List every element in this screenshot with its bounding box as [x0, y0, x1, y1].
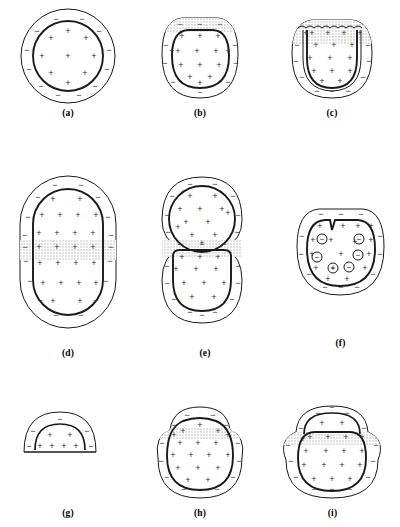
svg-text:+: +: [221, 278, 226, 288]
svg-text:+: +: [91, 258, 96, 268]
svg-text:−: −: [314, 86, 319, 96]
svg-text:+: +: [340, 221, 345, 231]
svg-text:−: −: [229, 294, 234, 304]
svg-text:+: +: [349, 40, 354, 50]
svg-text:+: +: [225, 208, 230, 218]
svg-text:+: +: [325, 432, 330, 442]
svg-text:+: +: [225, 430, 230, 440]
svg-text:−: −: [181, 484, 186, 494]
svg-text:+: +: [323, 446, 328, 456]
svg-text:−: −: [344, 408, 349, 418]
svg-text:−: −: [171, 420, 176, 430]
svg-text:+: +: [183, 217, 188, 227]
svg-text:−: −: [338, 209, 343, 219]
svg-text:+: +: [37, 441, 42, 451]
svg-text:−: −: [212, 307, 217, 317]
svg-text:+: +: [317, 221, 322, 231]
svg-text:−: −: [177, 239, 182, 249]
svg-text:−: −: [107, 256, 112, 266]
svg-text:−: −: [338, 282, 343, 292]
svg-text:+: +: [341, 28, 346, 38]
svg-text:−: −: [288, 456, 293, 466]
svg-text:−: −: [230, 191, 235, 201]
svg-text:−: −: [235, 278, 240, 288]
svg-text:+: +: [82, 68, 87, 78]
svg-text:+: +: [48, 33, 53, 43]
svg-text:+: +: [187, 72, 192, 82]
svg-text:−: −: [356, 251, 361, 260]
panel-b: −−− −− −− −− − +++ +++ +++ ++ +++ (b): [140, 6, 260, 106]
svg-text:−: −: [232, 40, 237, 50]
svg-text:+: +: [328, 235, 333, 245]
svg-text:−: −: [96, 26, 101, 36]
svg-text:−: −: [210, 410, 215, 420]
svg-text:+: +: [215, 463, 220, 473]
svg-text:+: +: [197, 60, 202, 70]
svg-text:+: +: [355, 221, 360, 231]
svg-text:+: +: [310, 235, 315, 245]
svg-text:+: +: [73, 441, 78, 451]
svg-text:+: +: [36, 242, 41, 252]
svg-text:−: −: [329, 402, 334, 412]
svg-text:+: +: [313, 263, 318, 273]
svg-text:−: −: [234, 227, 239, 237]
svg-text:−: −: [365, 40, 370, 50]
svg-text:−: −: [294, 40, 299, 50]
svg-text:+: +: [319, 418, 324, 428]
svg-text:+: +: [311, 474, 316, 484]
svg-text:−: −: [184, 410, 189, 420]
svg-text:−: −: [331, 264, 336, 273]
svg-text:+: +: [39, 210, 44, 220]
svg-text:−: −: [358, 209, 363, 219]
svg-text:−: −: [159, 438, 164, 448]
svg-text:−: −: [106, 45, 111, 55]
svg-text:−: −: [164, 261, 169, 271]
svg-text:+: +: [83, 33, 88, 43]
svg-text:+: +: [216, 60, 221, 70]
svg-text:−: −: [299, 72, 304, 82]
svg-text:−: −: [27, 276, 32, 286]
svg-text:−: −: [104, 64, 109, 74]
svg-text:+: +: [339, 418, 344, 428]
svg-text:+: +: [93, 278, 98, 288]
svg-text:+: +: [181, 278, 186, 288]
panel-d: −− −− −− −− −− −− −− −− −− ++ ++++ ++++ …: [8, 168, 128, 338]
svg-text:+: +: [76, 278, 81, 288]
svg-text:−: −: [108, 230, 113, 240]
svg-text:+: +: [193, 264, 198, 274]
svg-text:−: −: [158, 456, 163, 466]
svg-text:+: +: [55, 258, 60, 268]
svg-text:−: −: [164, 278, 169, 288]
svg-text:+: +: [175, 463, 180, 473]
svg-text:+: +: [339, 460, 344, 470]
svg-text:−: −: [329, 484, 334, 494]
svg-text:+: +: [72, 242, 77, 252]
svg-text:+: +: [178, 60, 183, 70]
svg-text:+: +: [54, 242, 59, 252]
svg-text:−: −: [298, 423, 303, 433]
svg-text:−: −: [306, 269, 311, 279]
svg-text:−: −: [105, 212, 110, 222]
svg-text:−: −: [329, 86, 334, 96]
svg-text:−: −: [25, 212, 30, 222]
svg-text:+: +: [72, 228, 77, 238]
svg-text:−: −: [233, 58, 238, 68]
svg-text:+: +: [179, 252, 184, 262]
svg-text:+: +: [205, 217, 210, 227]
svg-text:+: +: [338, 249, 343, 259]
svg-text:+: +: [199, 238, 204, 248]
panel-g: − −− −− ++ ++++ (g): [8, 400, 128, 470]
svg-text:+: +: [357, 28, 362, 38]
svg-text:+: +: [189, 292, 194, 302]
svg-text:+: +: [170, 450, 175, 460]
svg-text:+: +: [187, 191, 192, 201]
svg-text:−: −: [92, 81, 97, 91]
svg-text:+: +: [368, 221, 373, 231]
cell-division-charge-figure: −− −− −− −− −− −− + ++ +++ ++ + (a): [0, 0, 400, 527]
svg-text:+: +: [188, 450, 193, 460]
svg-text:−: −: [37, 295, 42, 305]
svg-text:−: −: [370, 456, 375, 466]
svg-text:+: +: [300, 434, 305, 444]
svg-text:+: +: [195, 463, 200, 473]
svg-text:−: −: [315, 253, 320, 262]
